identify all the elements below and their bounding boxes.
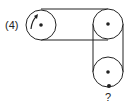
pulley-diagram xyxy=(0,0,136,105)
pulley-left-axle xyxy=(39,23,43,27)
pulley-bottom-right-axle xyxy=(106,70,110,74)
unknown-direction-label: ? xyxy=(105,92,111,103)
problem-number-label: (4) xyxy=(5,20,18,31)
pulley-bottom-marker-dot xyxy=(107,84,111,88)
pulley-top-right-axle xyxy=(106,22,110,26)
